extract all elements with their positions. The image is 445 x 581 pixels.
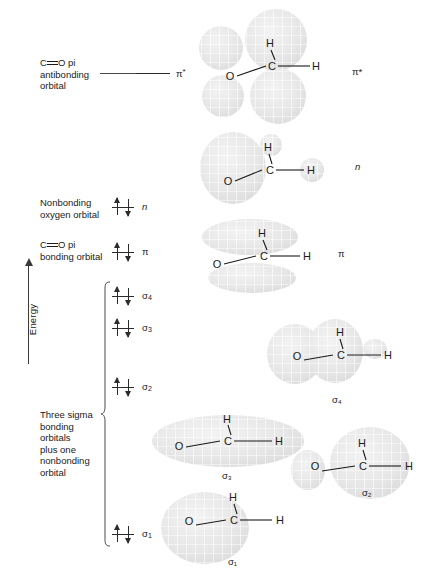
svg-text:H: H [275,435,283,447]
svg-text:H: H [358,437,366,449]
svg-text:O: O [175,440,184,452]
electron-arrow-up-sigma-2 [117,378,118,395]
label-nonbonding-line1: Nonbonding [40,197,91,208]
svg-text:C: C [260,250,268,262]
svg-text:H: H [264,141,272,153]
orbital-caption-sigma-1: σ₁ [228,556,237,567]
svg-text:C: C [268,60,276,72]
level-tag-n: n [142,201,147,212]
label-sigma-line6: orbital [40,467,66,478]
svg-text:H: H [405,460,413,472]
level-tag-sigma-3: σ3 [142,322,152,333]
energy-level-n [112,207,134,208]
label-antibonding-line3: orbital [40,80,66,91]
energy-level-pi-star [136,73,170,74]
orbital-tag-pi: π [338,248,345,259]
leader-line-pi-star [100,73,136,74]
energy-axis-label: Energy [27,290,38,350]
svg-text:H: H [384,349,392,361]
orbital-picture-pi: O C H H [200,212,345,294]
energy-level-sigma-2 [112,387,134,388]
label-sigma-group: Three sigma bonding orbitals plus one no… [40,409,102,479]
orbital-picture-pi-star: O C H H [192,8,342,123]
label-antibonding-c: C [40,57,47,68]
svg-text:H: H [276,514,284,526]
electron-arrow-up-n [117,198,118,215]
svg-text:C: C [224,435,232,447]
orbital-caption-sigma-3: σ₃ [222,470,232,481]
svg-text:C: C [266,164,274,176]
diagram-canvas: Energy CO pi antibonding orbital Nonbond… [0,0,445,581]
svg-text:H: H [307,164,315,176]
svg-text:H: H [229,491,237,503]
svg-text:O: O [213,258,222,270]
svg-text:C: C [230,514,238,526]
electron-arrow-down-sigma-3 [128,320,129,337]
electron-arrow-down-sigma-1 [128,526,129,543]
level-tag-sigma-2: σ2 [142,381,152,392]
svg-text:H: H [223,413,231,425]
orbital-picture-sigma-4: O C H H [255,318,430,393]
sigma-group-brace [100,281,111,547]
level-tag-pi-star: π* [176,67,186,79]
orbital-tag-n: n [355,161,360,172]
label-pibond-line2: bonding orbital [40,251,102,262]
orbital-picture-n: O C H H [200,128,345,208]
svg-text:O: O [185,515,194,527]
svg-text:H: H [258,227,266,239]
energy-level-sigma-4 [112,296,134,297]
svg-text:H: H [336,326,344,338]
electron-arrow-down-pi [128,244,129,261]
electron-arrow-up-sigma-1 [117,525,118,542]
orbital-picture-sigma-2: O C H H [283,425,438,503]
svg-text:C: C [359,460,367,472]
electron-arrow-down-sigma-4 [128,288,129,305]
svg-text:H: H [312,60,320,72]
level-subscript-sigma-4: 4 [148,294,152,301]
double-bond-icon [47,59,58,67]
label-sigma-line2: bonding [40,421,74,432]
orbital-caption-sigma-4: σ₄ [332,394,342,405]
label-nonbonding-oxygen: Nonbonding oxygen orbital [40,197,122,220]
svg-text:H: H [266,37,274,49]
svg-text:O: O [224,175,233,187]
electron-arrow-down-sigma-2 [128,379,129,396]
label-pibond-o-pi: O pi [58,239,75,250]
level-subscript-sigma-2: 2 [148,385,152,392]
label-pi-bonding: CO pi bonding orbital [40,239,122,262]
electron-arrow-up-pi [117,243,118,260]
svg-text:O: O [293,350,302,362]
svg-text:H: H [303,250,311,262]
label-antibonding-o-pi: O pi [58,57,75,68]
orbital-picture-sigma-1: O C H H [150,490,305,565]
label-sigma-line5: nonbonding [40,455,90,466]
energy-level-sigma-3 [112,328,134,329]
electron-arrow-up-sigma-3 [117,319,118,336]
label-pibond-c: C [40,239,47,250]
label-sigma-line3: orbitals [40,432,71,443]
label-nonbonding-line2: oxygen orbital [40,209,99,220]
atom-label-o: O [226,70,235,82]
label-sigma-line4: plus one [40,444,76,455]
electron-arrow-down-n [128,199,129,216]
label-antibonding-line2: antibonding [40,69,89,80]
level-subscript-sigma-3: 3 [148,326,152,333]
energy-axis: Energy [18,258,40,366]
label-sigma-line1: Three sigma [40,409,93,420]
electron-arrow-up-sigma-4 [117,287,118,304]
double-bond-icon [47,241,58,249]
orbital-caption-sigma-2: σ₂ [362,487,372,498]
energy-level-sigma-1 [112,534,134,535]
svg-text:O: O [311,460,320,472]
level-tag-pi: π [142,246,149,257]
orbital-tag-pi-star: π* [352,66,362,77]
energy-level-pi [112,252,134,253]
level-superscript-pi-star: * [183,67,186,76]
level-tag-sigma-4: σ4 [142,290,152,301]
svg-text:C: C [337,349,345,361]
label-pi-antibonding: CO pi antibonding orbital [40,57,118,92]
